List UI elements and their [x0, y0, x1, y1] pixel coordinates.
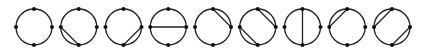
- vertex-dot-right: [319, 25, 323, 29]
- vertex-dot-top: [211, 7, 215, 11]
- vertex-dot-bottom: [345, 43, 349, 47]
- vertex-dot-bottom: [166, 43, 170, 47]
- vertex-dot-left: [104, 25, 108, 29]
- vertex-dot-left: [327, 25, 331, 29]
- vertex-dot-bottom: [32, 43, 36, 47]
- circle-outline: [240, 9, 276, 45]
- vertex-dot-top: [32, 7, 36, 11]
- circle-diagram-8: [327, 7, 367, 47]
- vertex-dot-right: [140, 25, 144, 29]
- vertex-dot-right: [229, 25, 233, 29]
- circle-diagram-9: [372, 7, 412, 47]
- vertex-dot-left: [283, 25, 287, 29]
- vertex-dot-top: [390, 7, 394, 11]
- vertex-dot-bottom: [301, 43, 305, 47]
- circle-diagram-3: [104, 7, 144, 47]
- circle-outline: [16, 9, 52, 45]
- vertex-dot-bottom: [390, 43, 394, 47]
- circle-diagram-5: [193, 7, 233, 47]
- circle-diagram-2: [59, 7, 99, 47]
- vertex-dot-top: [77, 7, 81, 11]
- vertex-dot-bottom: [211, 43, 215, 47]
- vertex-dot-left: [14, 25, 18, 29]
- circle-outline: [329, 9, 365, 45]
- circle-diagram-1: [14, 7, 54, 47]
- vertex-dot-top: [256, 7, 260, 11]
- circle-outline: [106, 9, 142, 45]
- vertex-dot-top: [345, 7, 349, 11]
- circle-outline: [61, 9, 97, 45]
- circle-diagram-4: [148, 7, 188, 47]
- vertex-dot-left: [372, 25, 376, 29]
- vertex-dot-left: [238, 25, 242, 29]
- circle-outline: [195, 9, 231, 45]
- circle-outline: [374, 9, 410, 45]
- vertex-dot-bottom: [77, 43, 81, 47]
- vertex-dot-left: [59, 25, 63, 29]
- vertex-dot-left: [193, 25, 197, 29]
- vertex-dot-top: [301, 7, 305, 11]
- circle-diagram-6: [238, 7, 278, 47]
- chord-diagram-row: [0, 0, 422, 53]
- vertex-dot-right: [50, 25, 54, 29]
- vertex-dot-bottom: [122, 43, 126, 47]
- vertex-dot-right: [184, 25, 188, 29]
- vertex-dot-top: [166, 7, 170, 11]
- vertex-dot-right: [363, 25, 367, 29]
- vertex-dot-right: [408, 25, 412, 29]
- circle-diagram-7: [283, 7, 323, 47]
- vertex-dot-top: [122, 7, 126, 11]
- vertex-dot-bottom: [256, 43, 260, 47]
- vertex-dot-right: [274, 25, 278, 29]
- vertex-dot-right: [95, 25, 99, 29]
- vertex-dot-left: [148, 25, 152, 29]
